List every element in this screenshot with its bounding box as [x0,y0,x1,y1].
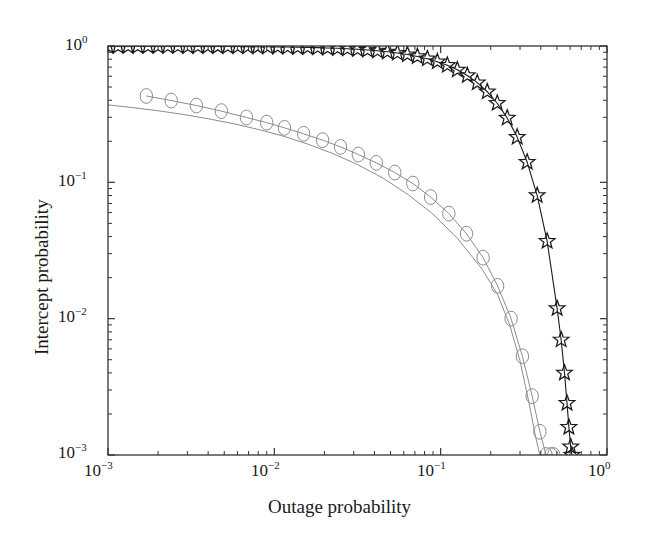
chart-canvas [0,0,645,536]
x-tick-label-1e-1: 10−1 [417,462,446,479]
series-line [108,46,572,455]
plot-frame [108,46,607,455]
x-tick-label-1e0: 100 [588,462,611,479]
axis-ticks-layer [108,46,607,455]
series-star-series [100,38,579,462]
series-line [146,96,553,455]
x-tick-label-1e-3: 10−3 [84,462,113,479]
series-line [108,105,546,455]
y-tick-label-1e-2: 10−2 [58,308,87,325]
series-circle-series [140,89,560,463]
figure-container: 10−3 10−2 10−1 100 100 10−1 10−2 10−3 Ou… [0,0,645,536]
x-axis-title: Outage probability [268,497,411,516]
series-layer [100,38,579,462]
series-plain-line-series [108,105,546,455]
y-axis-title: Intercept probability [32,199,51,355]
x-tick-label-1e-2: 10−2 [251,462,280,479]
y-tick-label-1e0: 100 [65,36,88,53]
star-marker [479,84,495,99]
y-tick-label-1e-1: 10−1 [58,172,87,189]
star-marker [450,62,466,77]
y-tick-label-1e-3: 10−3 [58,444,87,461]
